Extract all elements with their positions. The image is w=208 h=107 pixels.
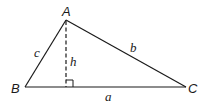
side-b <box>66 20 186 87</box>
vertex-label-a: A <box>61 4 71 19</box>
side-c <box>25 20 66 87</box>
right-angle-marker <box>66 80 73 87</box>
altitude-label-h: h <box>70 54 77 69</box>
triangle-diagram: A B C a b c h <box>0 0 208 107</box>
vertex-label-c: C <box>188 81 198 96</box>
vertex-label-b: B <box>11 81 20 96</box>
side-label-a: a <box>105 89 112 104</box>
side-label-c: c <box>34 45 40 60</box>
side-label-b: b <box>130 40 137 55</box>
